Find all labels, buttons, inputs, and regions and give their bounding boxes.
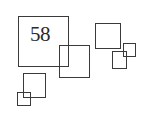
tiny-left-square (17, 92, 31, 106)
top-right-square (95, 23, 121, 49)
tiny-right-square (123, 43, 136, 57)
overlap-square (59, 45, 90, 78)
number-label: 58 (30, 24, 50, 45)
